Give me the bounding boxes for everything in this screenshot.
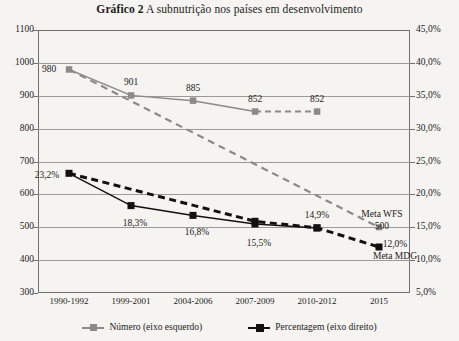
annotation-meta-wfs-line1: Meta WFS <box>361 208 402 220</box>
legend-label-numero: Número (eixo esquerdo) <box>109 322 202 332</box>
data-label-percentagem: 16,8% <box>185 227 210 237</box>
annotation-meta-mdg: 12,0% Meta MDG <box>373 238 417 262</box>
chart-legend: Número (eixo esquerdo) Percentagem (eixo… <box>0 322 459 332</box>
legend-item-percentagem: Percentagem (eixo direito) <box>248 322 376 332</box>
data-label-percentagem: 15,5% <box>247 238 272 248</box>
legend-item-numero: Número (eixo esquerdo) <box>82 322 202 332</box>
data-label-numero: 852 <box>248 94 262 104</box>
series-percentagem <box>66 170 321 232</box>
series-meta-mdg <box>69 173 383 250</box>
annotation-meta-mdg-line2: Meta MDG <box>373 250 417 262</box>
data-label-numero: 980 <box>42 64 56 74</box>
series-meta-wfs <box>69 70 382 231</box>
annotation-meta-wfs: Meta WFS 500 <box>361 208 402 232</box>
series-layer <box>0 0 459 341</box>
annotation-meta-wfs-line2: 500 <box>361 220 402 232</box>
data-label-numero: 852 <box>310 94 324 104</box>
data-label-percentagem: 18,3% <box>123 218 148 228</box>
chart-container: Gráfico 2 A subnutrição nos países em de… <box>0 0 459 341</box>
legend-square <box>256 324 264 332</box>
data-label-numero: 901 <box>124 77 138 87</box>
legend-marker-percentagem-icon <box>248 323 270 332</box>
data-label-percentagem: 14,9% <box>305 210 330 220</box>
annotation-meta-mdg-line1: 12,0% <box>373 238 417 250</box>
data-label-percentagem: 23,2% <box>35 170 60 180</box>
data-label-numero: 885 <box>186 83 200 93</box>
legend-label-percentagem: Percentagem (eixo direito) <box>275 322 376 332</box>
legend-square <box>90 324 97 331</box>
legend-marker-numero-icon <box>82 323 104 332</box>
